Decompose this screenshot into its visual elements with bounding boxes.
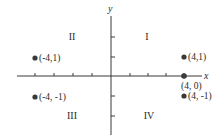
point-4-1 bbox=[181, 54, 186, 59]
y-axis-label: y bbox=[107, 3, 113, 14]
quadrant-label-iv: IV bbox=[144, 110, 155, 121]
point-label-4-neg1: (4, -1) bbox=[188, 91, 212, 102]
point-4-neg1 bbox=[181, 93, 186, 98]
x-axis-label: x bbox=[203, 70, 209, 81]
point-neg4-1 bbox=[32, 55, 37, 60]
point-4-0 bbox=[181, 73, 187, 79]
point-label-neg4-1: (-4,1) bbox=[39, 53, 60, 64]
coordinate-plane: x y I II III IV (-4,1) (-4, -1) (4,1) (4… bbox=[0, 0, 224, 139]
quadrant-label-i: I bbox=[145, 31, 148, 42]
point-neg4-neg1 bbox=[32, 94, 37, 99]
point-label-4-1: (4,1) bbox=[188, 52, 206, 63]
quadrant-label-ii: II bbox=[69, 31, 76, 42]
quadrant-label-iii: III bbox=[67, 110, 77, 121]
point-label-neg4-neg1: (-4, -1) bbox=[39, 92, 66, 103]
